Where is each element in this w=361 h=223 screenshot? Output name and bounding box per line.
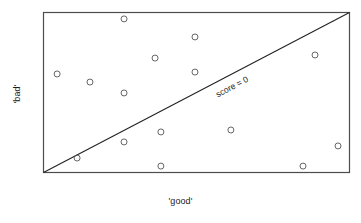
- x-axis-label: 'good': [0, 196, 361, 206]
- scatter-plot-figure: score = 0 'bad' 'good': [0, 0, 361, 223]
- plot-canvas: score = 0: [0, 0, 361, 223]
- y-axis-label: 'bad': [12, 74, 22, 114]
